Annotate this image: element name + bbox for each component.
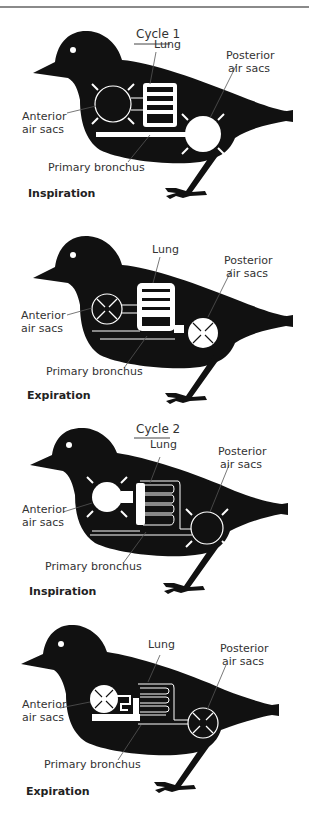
- lung-label: Lung: [148, 638, 175, 651]
- panel-cycle2-inspiration: Cycle 2 Lung Posterior air sacs Anterior…: [0, 405, 309, 610]
- bronchus-label: Primary bronchus: [48, 161, 145, 174]
- anterior-air-sac: [90, 685, 118, 713]
- cycle-label: Cycle 2: [136, 422, 180, 436]
- bronchus-label: Primary bronchus: [46, 365, 143, 378]
- posterior-label-1: Posterior: [220, 642, 269, 655]
- posterior-label-1: Posterior: [226, 49, 275, 62]
- posterior-label-1: Posterior: [224, 254, 273, 267]
- posterior-air-sac: [185, 116, 221, 152]
- lung-label: Lung: [152, 243, 179, 256]
- posterior-label-1: Posterior: [218, 445, 267, 458]
- anterior-air-sac: [95, 86, 131, 122]
- bird-diagram: [0, 205, 309, 410]
- phase-label: Expiration: [27, 389, 91, 402]
- anterior-label-2: air sacs: [22, 711, 64, 724]
- phase-label: Inspiration: [29, 585, 96, 598]
- anterior-label-1: Anterior: [21, 309, 65, 322]
- anterior-air-sac: [92, 482, 122, 512]
- bronchus-label: Primary bronchus: [45, 560, 142, 573]
- bird-eye: [70, 252, 76, 258]
- anterior-label-1: Anterior: [22, 503, 66, 516]
- bronchus-label: Primary bronchus: [44, 758, 141, 771]
- primary-bronchus: [92, 714, 140, 721]
- panel-cycle1-expiration: Lung Posterior air sacs Anterior air sac…: [0, 205, 309, 410]
- bird-eye: [70, 47, 76, 53]
- anterior-label-1: Anterior: [22, 698, 66, 711]
- panel-cycle2-expiration: Lung Posterior air sacs Anterior air sac…: [0, 610, 309, 815]
- primary-bronchus: [96, 132, 196, 137]
- anterior-label-2: air sacs: [22, 123, 64, 136]
- phase-label: Inspiration: [28, 187, 95, 200]
- lung-label: Lung: [150, 438, 177, 451]
- bird-eye: [58, 641, 64, 647]
- posterior-label-2: air sacs: [228, 62, 270, 75]
- posterior-label-2: air sacs: [226, 267, 268, 280]
- panel-cycle1-inspiration: Cycle 1 Lung Posterior air sacs Anterior…: [0, 0, 309, 205]
- posterior-label-2: air sacs: [220, 458, 262, 471]
- lung-label: Lung: [154, 38, 181, 51]
- posterior-air-sac: [188, 708, 218, 738]
- bird-eye: [66, 442, 72, 448]
- phase-label: Expiration: [26, 785, 90, 798]
- anterior-air-sac: [92, 294, 122, 324]
- anterior-label-2: air sacs: [22, 516, 64, 529]
- posterior-air-sac: [191, 512, 223, 544]
- posterior-air-sac: [188, 318, 218, 348]
- anterior-label-1: Anterior: [22, 110, 66, 123]
- anterior-label-2: air sacs: [21, 322, 63, 335]
- posterior-label-2: air sacs: [222, 655, 264, 668]
